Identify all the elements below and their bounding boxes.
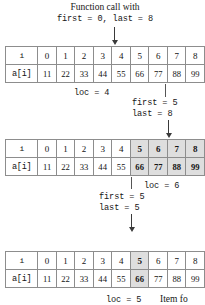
- index-cell: 6: [149, 252, 168, 270]
- value-cell: 55: [112, 270, 131, 288]
- row-header-index: i: [6, 140, 38, 158]
- index-cell: 3: [93, 47, 112, 65]
- value-cell: 77: [149, 65, 168, 83]
- step2-call-label-line2: last = 8: [132, 109, 202, 120]
- step1-call-label-line1: Function call with: [45, 2, 165, 13]
- step1-array-table: i 0 1 2 3 4 5 6 7 8 a[i] 11 22 33 44 55 …: [5, 46, 205, 83]
- row-header-index: i: [6, 252, 38, 270]
- index-cell: 2: [75, 252, 94, 270]
- value-cell: 66: [130, 270, 149, 288]
- row-header-index: i: [6, 47, 38, 65]
- step2-pointer-arrow: [165, 120, 172, 138]
- value-cell: 99: [186, 65, 205, 83]
- value-cell: 22: [56, 270, 75, 288]
- step2-array-table: i 0 1 2 3 4 5 6 7 8 a[i] 11 22 33 44 55 …: [5, 139, 205, 176]
- step3-trailing-label: Item fo: [160, 294, 205, 305]
- step3-array-table: i 0 1 2 3 4 5 6 7 8 a[i] 11 22 33 44 55 …: [5, 251, 205, 288]
- step1-loc-label: loc = 4: [74, 88, 109, 98]
- row-header-values: a[i]: [6, 158, 38, 176]
- index-cell: 8: [186, 47, 205, 65]
- value-cell: 88: [167, 65, 186, 83]
- step2-call-label-line1: first = 5: [132, 98, 202, 109]
- value-cell: 22: [56, 158, 75, 176]
- row-header-values: a[i]: [6, 270, 38, 288]
- index-cell: 0: [38, 140, 57, 158]
- table-row-index: i 0 1 2 3 4 5 6 7 8: [6, 252, 205, 270]
- step3-call-label-line2: last = 5: [99, 203, 169, 214]
- value-cell: 99: [186, 270, 205, 288]
- value-cell: 33: [75, 65, 94, 83]
- index-cell: 4: [112, 252, 131, 270]
- row-header-values: a[i]: [6, 65, 38, 83]
- index-cell: 4: [112, 140, 131, 158]
- value-cell: 22: [56, 65, 75, 83]
- binary-search-trace-figure: Function call with first = 0, last = 8 i…: [0, 0, 205, 305]
- value-cell: 44: [93, 270, 112, 288]
- index-cell: 1: [56, 140, 75, 158]
- value-cell: 55: [112, 65, 131, 83]
- table-row-index: i 0 1 2 3 4 5 6 7 8: [6, 47, 205, 65]
- index-cell: 8: [186, 140, 205, 158]
- value-cell: 44: [93, 158, 112, 176]
- step3-loc-label: loc = 5: [106, 295, 141, 305]
- value-cell: 11: [38, 270, 57, 288]
- value-cell: 55: [112, 158, 131, 176]
- index-cell: 5: [130, 47, 149, 65]
- index-cell: 4: [112, 47, 131, 65]
- table-row-values: a[i] 11 22 33 44 55 66 77 88 99: [6, 158, 205, 176]
- table-row-values: a[i] 11 22 33 44 55 66 77 88 99: [6, 65, 205, 83]
- index-cell: 2: [75, 47, 94, 65]
- index-cell: 7: [167, 140, 186, 158]
- value-cell: 11: [38, 158, 57, 176]
- index-cell: 3: [93, 252, 112, 270]
- value-cell: 66: [130, 158, 149, 176]
- index-cell: 7: [167, 47, 186, 65]
- step2-loc-label: loc = 6: [144, 181, 179, 191]
- index-cell: 7: [167, 252, 186, 270]
- index-cell: 0: [38, 252, 57, 270]
- step1-call-label-line2: first = 0, last = 8: [45, 14, 165, 25]
- index-cell: 3: [93, 140, 112, 158]
- step3-connector-tick: [131, 177, 132, 189]
- table-row-values: a[i] 11 22 33 44 55 66 77 88 99: [6, 270, 205, 288]
- value-cell: 11: [38, 65, 57, 83]
- value-cell: 99: [186, 158, 205, 176]
- value-cell: 88: [167, 158, 186, 176]
- index-cell: 1: [56, 252, 75, 270]
- value-cell: 77: [149, 158, 168, 176]
- step3-pointer-arrow: [128, 214, 135, 232]
- step1-pointer-arrow: [111, 27, 118, 45]
- index-cell: 2: [75, 140, 94, 158]
- value-cell: 88: [167, 270, 186, 288]
- index-cell: 5: [130, 252, 149, 270]
- value-cell: 33: [75, 270, 94, 288]
- index-cell: 1: [56, 47, 75, 65]
- value-cell: 77: [149, 270, 168, 288]
- index-cell: 6: [149, 140, 168, 158]
- value-cell: 44: [93, 65, 112, 83]
- index-cell: 5: [130, 140, 149, 158]
- index-cell: 0: [38, 47, 57, 65]
- index-cell: 8: [186, 252, 205, 270]
- index-cell: 6: [149, 47, 168, 65]
- value-cell: 33: [75, 158, 94, 176]
- step2-connector-tick: [165, 84, 166, 97]
- table-row-index: i 0 1 2 3 4 5 6 7 8: [6, 140, 205, 158]
- step3-call-label-line1: first = 5: [99, 192, 169, 203]
- value-cell: 66: [130, 65, 149, 83]
